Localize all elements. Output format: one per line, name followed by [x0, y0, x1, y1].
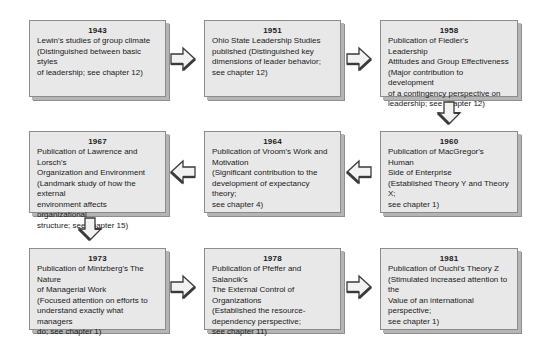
timeline-node-1958: 1958 Publication of Fiedler's Leadership… — [380, 20, 518, 97]
timeline-node-1960: 1960 Publication of MacGregor's Human Si… — [380, 131, 518, 213]
node-year-label: 1960 — [388, 137, 510, 147]
node-year-label: 1973 — [37, 254, 158, 264]
arrow-left-icon — [168, 157, 198, 187]
arrow-down-icon — [434, 100, 464, 127]
node-description: Publication of MacGregor's Human Side of… — [388, 147, 510, 210]
node-year-label: 1967 — [37, 137, 158, 147]
node-description: Publication of Ouchi's Theory Z (Stimula… — [388, 264, 510, 327]
arrow-right-icon — [168, 44, 198, 74]
arrow-down-icon — [75, 216, 105, 243]
node-description: Publication of Fiedler's Leadership Atti… — [388, 36, 510, 110]
node-year-label: 1951 — [212, 26, 333, 36]
timeline-node-1981: 1981 Publication of Ouchi's Theory Z (St… — [380, 248, 518, 330]
timeline-node-1967: 1967 Publication of Lawrence and Lorsch'… — [29, 131, 166, 213]
timeline-node-1978: 1978 Publication of Pfeffer and Salancik… — [204, 248, 341, 330]
arrow-right-icon — [168, 272, 198, 302]
node-description: Ohio State Leadership Studies published … — [212, 36, 333, 78]
arrow-right-icon — [344, 44, 374, 74]
node-year-label: 1981 — [388, 254, 510, 264]
node-description: Publication of Mintzberg's The Nature of… — [37, 264, 158, 338]
node-year-label: 1958 — [388, 26, 510, 36]
node-description: Lewin's studies of group climate (Distin… — [37, 36, 158, 78]
timeline-node-1964: 1964 Publication of Vroom's Work and Mot… — [204, 131, 341, 213]
arrow-right-icon — [344, 272, 374, 302]
timeline-diagram: 1943 Lewin's studies of group climate (D… — [0, 0, 542, 352]
node-year-label: 1964 — [212, 137, 333, 147]
node-description: Publication of Pfeffer and Salancik's Th… — [212, 264, 333, 338]
timeline-node-1973: 1973 Publication of Mintzberg's The Natu… — [29, 248, 166, 330]
node-year-label: 1943 — [37, 26, 158, 36]
node-year-label: 1978 — [212, 254, 333, 264]
arrow-left-icon — [344, 157, 374, 187]
node-description: Publication of Vroom's Work and Motivati… — [212, 147, 333, 210]
timeline-node-1943: 1943 Lewin's studies of group climate (D… — [29, 20, 166, 97]
timeline-node-1951: 1951 Ohio State Leadership Studies publi… — [204, 20, 341, 97]
